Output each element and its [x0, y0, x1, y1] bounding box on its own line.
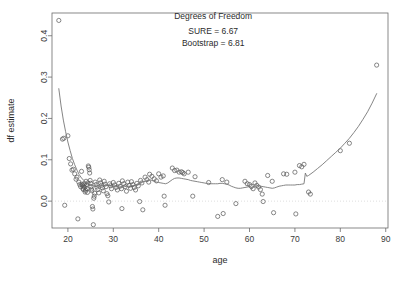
data-point — [243, 179, 247, 183]
data-point — [133, 188, 137, 192]
scatter-points-group — [57, 18, 379, 226]
fitted-curve-group — [59, 89, 377, 189]
data-point — [141, 208, 145, 212]
data-point — [294, 212, 298, 216]
data-point — [234, 202, 238, 206]
data-point — [170, 166, 174, 170]
x-tick-label: 50 — [199, 234, 209, 244]
annotation-line-2: SURE = 6.67 — [188, 26, 238, 36]
data-point — [107, 200, 111, 204]
data-point — [69, 162, 73, 166]
df-estimate-scatter-plot: 2030405060708090 0.00.10.20.30.4 Degrees… — [0, 0, 412, 284]
x-axis-title: age — [212, 255, 227, 265]
data-point — [138, 199, 142, 203]
data-point — [76, 217, 80, 221]
data-point — [93, 180, 97, 184]
data-point — [162, 194, 166, 198]
data-point — [221, 211, 225, 215]
data-point — [101, 189, 105, 193]
data-point — [98, 178, 102, 182]
annotation-line-3: Bootstrap = 6.81 — [182, 38, 245, 48]
fitted-curve-path — [59, 89, 377, 189]
data-point — [220, 178, 224, 182]
data-point — [271, 211, 275, 215]
data-point — [93, 191, 97, 195]
data-point — [293, 170, 297, 174]
data-point — [71, 167, 75, 171]
data-point — [91, 223, 95, 227]
data-point — [270, 179, 274, 183]
data-point — [79, 169, 83, 173]
data-point — [347, 141, 351, 145]
y-tick-label: 0.0 — [39, 195, 49, 207]
data-point — [138, 178, 142, 182]
data-point — [302, 162, 306, 166]
x-tick-label: 30 — [109, 234, 119, 244]
y-tick-label: 0.4 — [39, 30, 49, 42]
y-axis-title: df estimate — [6, 98, 16, 142]
data-point — [266, 173, 270, 177]
y-tick-label: 0.1 — [39, 154, 49, 166]
y-axis-ticks: 0.00.10.20.30.4 — [39, 30, 52, 207]
data-point — [95, 185, 99, 189]
data-point — [109, 187, 113, 191]
data-point — [260, 192, 264, 196]
x-tick-label: 90 — [381, 234, 391, 244]
data-point — [120, 206, 124, 210]
data-point — [191, 194, 195, 198]
data-point — [57, 18, 61, 22]
data-point — [186, 170, 190, 174]
y-tick-label: 0.3 — [39, 71, 49, 83]
data-point — [375, 63, 379, 67]
x-tick-label: 40 — [154, 234, 164, 244]
data-point — [111, 180, 115, 184]
data-point — [193, 175, 197, 179]
data-point — [67, 156, 71, 160]
x-tick-label: 20 — [63, 234, 73, 244]
data-point — [91, 207, 95, 211]
data-point — [216, 214, 220, 218]
data-point — [102, 179, 106, 183]
y-tick-label: 0.2 — [39, 112, 49, 124]
data-point — [63, 203, 67, 207]
annotations-group: Degrees of FreedomSURE = 6.67Bootstrap =… — [174, 11, 252, 48]
data-point — [115, 188, 119, 192]
chart-canvas: 2030405060708090 0.00.10.20.30.4 Degrees… — [0, 0, 412, 284]
data-point — [163, 203, 167, 207]
data-point — [124, 189, 128, 193]
x-axis-ticks: 2030405060708090 — [63, 228, 391, 244]
x-tick-label: 80 — [336, 234, 346, 244]
annotation-line-1: Degrees of Freedom — [174, 11, 252, 21]
data-point — [261, 199, 265, 203]
x-tick-label: 70 — [290, 234, 300, 244]
data-point — [62, 136, 66, 140]
x-tick-label: 60 — [245, 234, 255, 244]
